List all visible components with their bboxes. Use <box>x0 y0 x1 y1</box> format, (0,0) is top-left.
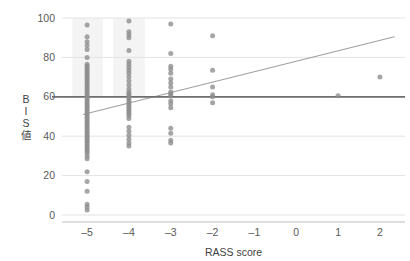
data-point <box>85 22 90 27</box>
y-axis-title-char-2: S <box>22 117 29 129</box>
data-point <box>210 84 215 89</box>
x-axis-title: RASS score <box>205 246 262 258</box>
data-point <box>168 84 173 89</box>
data-point <box>85 156 90 161</box>
data-point <box>126 18 131 23</box>
x-tick-label-2: 2 <box>377 226 383 238</box>
x-tick-label-–3: –3 <box>165 226 177 238</box>
data-point <box>210 68 215 73</box>
x-tick-label-–4: –4 <box>123 226 135 238</box>
data-point <box>168 51 173 56</box>
data-point <box>377 75 382 80</box>
y-axis-title-char-3: 値 <box>21 129 32 141</box>
data-point <box>85 169 90 174</box>
y-tick-label-0: 0 <box>49 209 55 221</box>
data-point <box>85 189 90 194</box>
data-point <box>85 47 90 52</box>
y-tick-label-40: 40 <box>43 130 55 142</box>
data-point <box>168 71 173 76</box>
data-point <box>126 144 131 149</box>
x-axis-title-text: RASS score <box>205 246 262 258</box>
data-point <box>126 116 131 121</box>
data-point <box>126 35 131 40</box>
x-tick-label-–2: –2 <box>207 226 219 238</box>
x-tick-label-1: 1 <box>335 226 341 238</box>
data-point <box>168 21 173 26</box>
data-point <box>168 105 173 110</box>
data-point <box>168 93 173 98</box>
x-tick-label-–1: –1 <box>249 226 261 238</box>
x-tick-label-0: 0 <box>293 226 299 238</box>
y-tick-label-20: 20 <box>43 169 55 181</box>
data-point <box>168 126 173 131</box>
data-point <box>168 141 173 146</box>
data-point <box>85 34 90 39</box>
data-point <box>210 94 215 99</box>
chart-canvas: 020406080100 –5–4–3–2–1012 BIS値 RASS sco… <box>0 0 410 261</box>
y-tick-label-80: 80 <box>43 51 55 63</box>
y-axis-title-char-1: I <box>25 105 28 117</box>
data-point <box>85 55 90 60</box>
data-point <box>168 131 173 136</box>
y-axis-title-char-0: B <box>22 93 29 105</box>
x-tick-label-–5: –5 <box>81 226 93 238</box>
data-point <box>126 48 131 53</box>
data-point <box>210 100 215 105</box>
scatter-chart: 020406080100 –5–4–3–2–1012 BIS値 RASS sco… <box>0 0 410 261</box>
data-point <box>85 208 90 213</box>
y-tick-label-100: 100 <box>37 12 55 24</box>
data-point <box>210 33 215 38</box>
data-point <box>336 93 341 98</box>
data-point <box>85 179 90 184</box>
